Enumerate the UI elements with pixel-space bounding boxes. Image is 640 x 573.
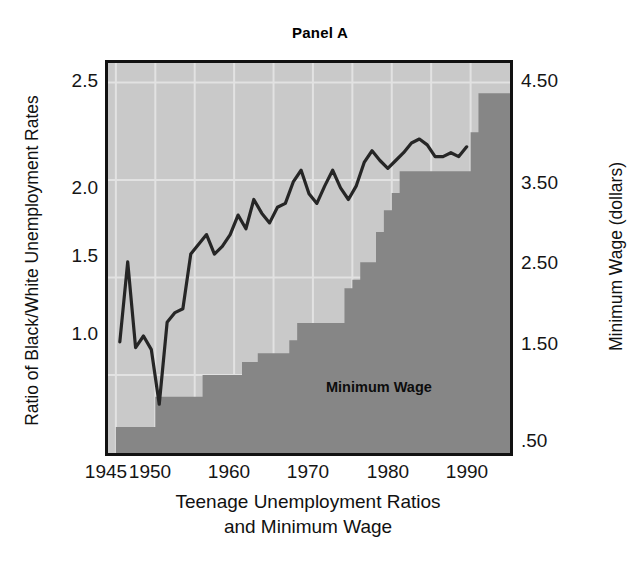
y-right-tick-0-50: .50 xyxy=(521,430,547,452)
x-tick-1950: 1950 xyxy=(110,461,190,483)
plot-area: Minimum Wage xyxy=(105,60,513,456)
y-right-tick-4-50: 4.50 xyxy=(521,70,558,92)
y-left-tick-2-0: 2.0 xyxy=(36,177,98,199)
figure-panel-a: Panel A 2.5 2.0 1.5 1.0 4.50 3.50 2.50 1… xyxy=(0,0,640,573)
y-axis-right-title: Minimum Wage (dollars) xyxy=(606,57,627,457)
page-title: Panel A xyxy=(0,24,640,41)
y-left-tick-1-0: 1.0 xyxy=(36,323,98,345)
caption-line-1: Teenage Unemployment Ratios xyxy=(58,489,558,514)
x-tick-1990: 1990 xyxy=(427,461,507,483)
y-right-tick-2-50: 2.50 xyxy=(521,252,558,274)
chart-canvas xyxy=(108,63,510,453)
caption-line-2: and Minimum Wage xyxy=(58,514,558,539)
y-right-tick-3-50: 3.50 xyxy=(521,172,558,194)
y-left-tick-2-5: 2.5 xyxy=(36,70,98,92)
x-tick-1960: 1960 xyxy=(189,461,269,483)
plot-inner xyxy=(108,63,510,453)
figure-caption: Teenage Unemployment Ratios and Minimum … xyxy=(58,489,558,539)
y-left-tick-1-5: 1.5 xyxy=(36,245,98,267)
x-tick-1980: 1980 xyxy=(348,461,428,483)
minimum-wage-annotation: Minimum Wage xyxy=(326,379,432,395)
x-tick-1970: 1970 xyxy=(268,461,348,483)
y-right-tick-1-50: 1.50 xyxy=(521,333,558,355)
y-axis-left-title: Ratio of Black/White Unemployment Rates xyxy=(22,61,43,461)
